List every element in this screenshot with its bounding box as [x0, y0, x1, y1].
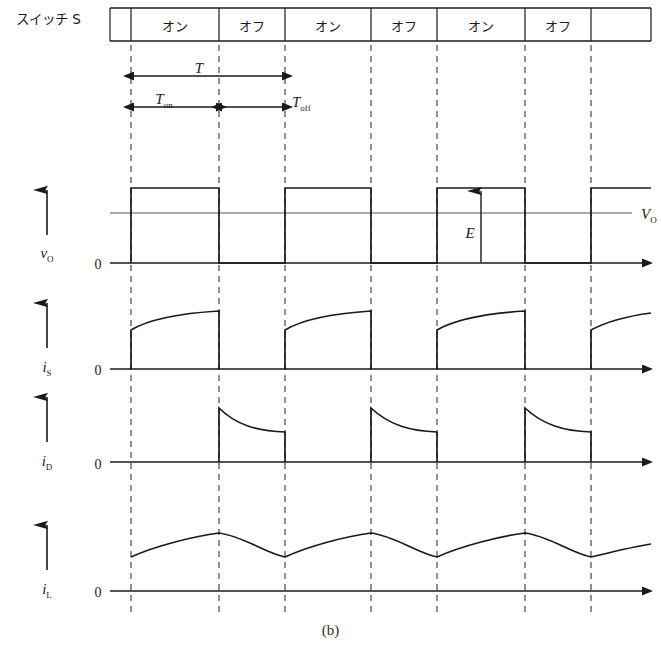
vo-zero-label: 0	[95, 257, 102, 272]
trace-id: iD 0	[42, 397, 643, 472]
trace-il: iL 0	[42, 525, 651, 600]
switch-state-table: スイッチ S オン オフ オン オフ オン オフ	[16, 8, 651, 41]
switching-waveform-figure: スイッチ S オン オフ オン オフ オン オフ	[0, 0, 661, 661]
is-waveform	[131, 311, 651, 369]
is-zero-label: 0	[95, 363, 102, 378]
timing-annotations: T Ton Toff	[133, 60, 311, 113]
switch-state-cell-3: オン	[315, 19, 341, 34]
id-waveform	[219, 408, 591, 462]
vo-axis-label: vO	[40, 245, 54, 264]
switch-state-cell-4: オフ	[391, 19, 417, 34]
switch-row-label: スイッチ S	[16, 11, 81, 27]
figure-caption: (b)	[0, 622, 661, 639]
trace-is: iS 0	[42, 303, 651, 378]
il-waveform	[131, 533, 651, 557]
il-axis-label: iL	[42, 581, 52, 600]
trace-vo: vO 0 VO E	[40, 188, 657, 272]
switch-state-cell-5: オン	[468, 19, 494, 34]
switch-state-cell-6: オフ	[545, 19, 571, 34]
id-zero-label: 0	[95, 457, 102, 472]
amplitude-label: E	[464, 225, 474, 241]
off-time-label: Toff	[292, 94, 311, 113]
switch-state-cell-1: オン	[162, 19, 188, 34]
average-voltage-label: VO	[641, 206, 657, 225]
timing-gridlines	[131, 45, 591, 612]
period-label: T	[195, 60, 205, 76]
switch-state-cell-2: オフ	[239, 19, 265, 34]
vo-waveform	[131, 188, 651, 263]
id-axis-label: iD	[42, 453, 53, 472]
is-axis-label: iS	[42, 359, 51, 378]
il-zero-label: 0	[95, 585, 102, 600]
